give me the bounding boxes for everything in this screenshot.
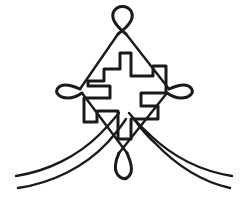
figure-canvas: Ornamental fylfot knot motif Line drawin… — [0, 0, 249, 199]
ornament-drawing — [0, 0, 249, 199]
